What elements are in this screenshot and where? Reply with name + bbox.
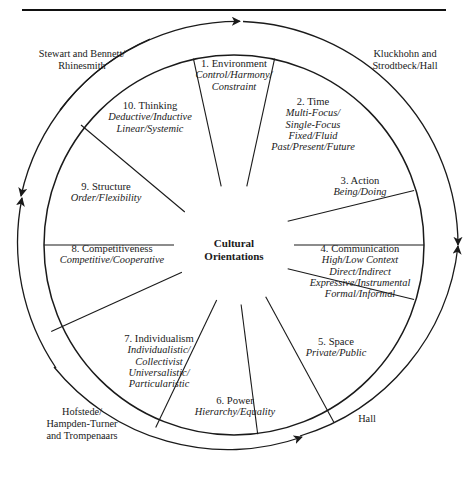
sector-label-environment: 1. Environment Control/Harmony/ Constrai…	[144, 58, 324, 92]
sector-values-structure: Order/Flexibility	[44, 192, 168, 203]
source-label-hofstede-hampden-trompenaars: Hofstede/ Hampden-Turner and Trompenaars	[16, 406, 148, 442]
spoke-8-9	[51, 272, 182, 331]
center-title: Cultural Orientations	[174, 237, 294, 263]
sector-number-competitiveness: 8. Competitiveness	[38, 243, 186, 254]
sector-values-thinking: Deductive/Inductive Linear/Systemic	[84, 111, 216, 133]
source-label-hall: Hall	[342, 413, 392, 425]
sector-values-action: Being/Doing	[300, 186, 420, 197]
sector-label-competitiveness: 8. Competitiveness Competitive/Cooperati…	[38, 243, 186, 266]
sector-label-structure: 9. Structure Order/Flexibility	[44, 181, 168, 204]
sector-values-space: Private/Public	[281, 347, 391, 358]
sector-values-environment: Control/Harmony/ Constraint	[144, 69, 324, 91]
arc-bottom-left-up	[18, 198, 56, 368]
sector-label-action: 3. Action Being/Doing	[300, 175, 420, 198]
sector-values-communication: High/Low Context Direct/Indirect Express…	[286, 254, 434, 299]
sector-number-structure: 9. Structure	[44, 181, 168, 192]
sector-label-communication: 4. Communication High/Low Context Direct…	[286, 243, 434, 299]
sector-number-individualism: 7. Individualism	[104, 333, 214, 344]
source-label-stewart-bennett-rhinesmith: Stewart and Bennett/ Rhinesmith	[8, 48, 156, 72]
sector-label-thinking: 10. Thinking Deductive/Inductive Linear/…	[84, 100, 216, 134]
sector-label-space: 5. Space Private/Public	[281, 336, 391, 359]
sector-number-space: 5. Space	[281, 336, 391, 347]
source-label-kluckhohn-strodtbeck-hall: Kluckhohn and Strodtbeck/Hall	[345, 48, 465, 72]
sector-values-individualism: Individualistic/ Collectivist Universali…	[104, 344, 214, 389]
sector-number-action: 3. Action	[300, 175, 420, 186]
sector-number-environment: 1. Environment	[144, 58, 324, 69]
sector-number-thinking: 10. Thinking	[84, 100, 216, 111]
sector-label-power: 6. Power Hierarchy/Equality	[173, 395, 297, 418]
sector-values-competitiveness: Competitive/Cooperative	[38, 254, 186, 265]
sector-values-time: Multi-Focus/ Single-Focus Fixed/Fluid Pa…	[242, 107, 384, 152]
sector-number-communication: 4. Communication	[286, 243, 434, 254]
center-title-line-2: Orientations	[174, 250, 294, 263]
figure-canvas: 1. Environment Control/Harmony/ Constrai…	[0, 0, 468, 478]
sector-values-power: Hierarchy/Equality	[173, 406, 297, 417]
sector-label-time: 2. Time Multi-Focus/ Single-Focus Fixed/…	[242, 96, 384, 152]
center-title-line-1: Cultural	[174, 237, 294, 250]
sector-number-time: 2. Time	[242, 96, 384, 107]
sector-label-individualism: 7. Individualism Individualistic/ Collec…	[104, 333, 214, 389]
sector-number-power: 6. Power	[173, 395, 297, 406]
